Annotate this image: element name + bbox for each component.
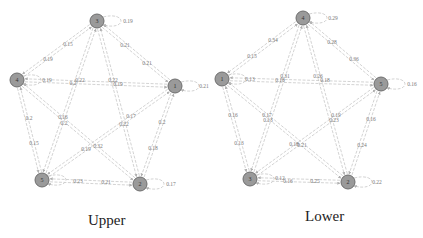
edge <box>24 84 135 178</box>
edge-weight-label: 0.16 <box>366 116 376 122</box>
edge-weight-label: 0.17 <box>166 181 176 187</box>
edge-weight-label: 0.15 <box>29 140 39 146</box>
self-loop-edge <box>103 16 121 26</box>
edge-weight-label: 0.16 <box>407 81 417 87</box>
edge-weight-label: 0.2 <box>61 120 68 126</box>
edge <box>50 182 132 185</box>
self-loop-edge <box>146 179 164 189</box>
edge-weight-label: 0.25 <box>310 178 320 184</box>
node-label: 4 <box>302 15 305 21</box>
edge-weight-label: 0.19 <box>43 56 53 62</box>
edge-weight-label: 0.32 <box>93 143 103 149</box>
edge <box>258 181 340 184</box>
edge-weight-label: 0.17 <box>126 113 136 119</box>
edge <box>227 85 341 178</box>
edge <box>223 87 247 172</box>
node-label: 3 <box>249 176 252 182</box>
edge-weight-label: 0.16 <box>228 112 238 118</box>
self-loop-edge <box>387 79 405 89</box>
edge-weight-label: 0.19 <box>123 18 133 24</box>
edge <box>20 87 41 171</box>
edge <box>229 83 343 176</box>
edge-weight-label: 0.28 <box>327 39 337 45</box>
edge <box>144 94 174 177</box>
edge-weight-label: 0.21 <box>142 60 152 66</box>
edge-weight-label: 0.29 <box>328 15 338 21</box>
self-loop-edge <box>256 174 274 184</box>
edge-weight-label: 0.18 <box>275 77 285 83</box>
self-loop-edge <box>48 175 66 185</box>
edge-weight-label: 0.13 <box>234 140 244 146</box>
edge <box>104 25 170 80</box>
edge <box>226 86 250 171</box>
edge-weight-label: 0.22 <box>119 121 129 127</box>
graph-upper: 341520.190.150.190.210.210.190.220.20.22… <box>10 14 209 191</box>
node-label: 5 <box>380 81 383 87</box>
edge-weight-label: 0.2 <box>159 119 166 125</box>
node-label: 1 <box>221 76 224 82</box>
edge <box>24 27 91 77</box>
edge <box>17 88 38 172</box>
caption-lower: Lower <box>305 208 344 225</box>
edge <box>141 93 171 176</box>
edge <box>256 87 374 173</box>
edge <box>257 90 375 176</box>
edge-weight-label: 0.18 <box>148 145 158 151</box>
edge <box>310 22 376 78</box>
edge <box>352 92 380 175</box>
edge-weight-label: 0.15 <box>63 41 73 47</box>
edge <box>308 24 374 80</box>
edge-weight-label: 0.13 <box>263 117 273 123</box>
self-loop-edge <box>309 13 327 23</box>
self-loop-edge <box>181 81 199 91</box>
edge-weight-label: 0.23 <box>73 178 83 184</box>
graph-lower: 415320.290.340.280.150.360.130.310.180.2… <box>215 11 417 189</box>
edge-weight-label: 0.21 <box>199 83 209 89</box>
edge-weight-label: 0.18 <box>320 77 330 83</box>
edge-weight-label: 0.15 <box>247 53 257 59</box>
edge-weight-label: 0.19 <box>42 77 52 83</box>
network-diagrams: 341520.190.150.190.210.210.190.220.20.22… <box>0 0 423 238</box>
edge <box>349 91 377 174</box>
caption-upper: Upper <box>88 212 126 229</box>
edge-weight-label: 0.21 <box>101 179 111 185</box>
edge-weight-label: 0.22 <box>75 77 85 83</box>
edge-weight-label: 0.22 <box>372 179 382 185</box>
edge-weight-label: 0.2 <box>70 80 77 86</box>
edge <box>258 178 340 181</box>
edge-weight-label: 0.21 <box>297 142 307 148</box>
edge-weight-label: 0.36 <box>349 56 359 62</box>
self-loop-edge <box>23 75 41 85</box>
edge-weight-label: 0.23 <box>329 117 339 123</box>
edge <box>251 25 299 171</box>
edge-weight-label: 0.13 <box>245 76 255 82</box>
self-loop-edge <box>354 177 372 187</box>
node-label: 4 <box>16 77 19 83</box>
edge <box>50 179 132 182</box>
node-label: 2 <box>139 181 142 187</box>
edge-weight-label: 0.19 <box>81 146 91 152</box>
edge <box>229 24 297 75</box>
edge <box>102 27 168 82</box>
self-loop-edge <box>228 74 246 84</box>
node-label: 5 <box>41 177 44 183</box>
node-label: 3 <box>96 18 99 24</box>
edge-weight-label: 0.21 <box>120 42 130 48</box>
edge-weight-label: 0.34 <box>268 37 278 43</box>
edge <box>49 92 169 177</box>
node-label: 2 <box>347 179 350 185</box>
edge-weight-label: 0.19 <box>113 81 123 87</box>
edge-weight-label: 0.2 <box>26 115 33 121</box>
edge-weight-label: 0.16 <box>283 178 293 184</box>
edge-weight-label: 0.24 <box>357 142 367 148</box>
node-label: 1 <box>174 83 177 89</box>
